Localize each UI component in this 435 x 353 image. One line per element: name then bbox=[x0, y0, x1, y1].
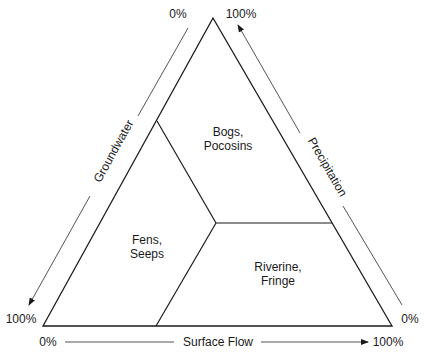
region-bogs-line2: Pocosins bbox=[204, 139, 253, 153]
ternary-diagram: Groundwater 0% 100% Precipitation 0% 100… bbox=[0, 0, 435, 353]
surface-flow-label: Surface Flow bbox=[183, 335, 253, 349]
groundwater-start: 0% bbox=[169, 7, 187, 21]
groundwater-label: Groundwater bbox=[91, 117, 137, 184]
surface-flow-end: 100% bbox=[373, 335, 404, 349]
groundwater-end: 100% bbox=[6, 312, 37, 326]
precipitation-axis-line-upper bbox=[238, 25, 300, 133]
precipitation-label: Precipitation bbox=[305, 135, 350, 199]
region-riverine-line1: Riverine, bbox=[254, 260, 301, 274]
groundwater-axis-line-lower bbox=[29, 196, 90, 305]
precipitation-start: 0% bbox=[401, 312, 419, 326]
region-bogs-line1: Bogs, bbox=[213, 125, 244, 139]
precipitation-end: 100% bbox=[226, 7, 257, 21]
divider-fens-riverine bbox=[156, 223, 216, 326]
surface-flow-start: 0% bbox=[39, 335, 57, 349]
region-fens-line2: Seeps bbox=[130, 247, 164, 261]
divider-bogs-fens bbox=[157, 121, 216, 223]
groundwater-axis-line-upper bbox=[138, 28, 188, 116]
region-fens-line1: Fens, bbox=[132, 233, 162, 247]
region-riverine-line2: Fringe bbox=[261, 274, 295, 288]
precipitation-axis-line-lower bbox=[343, 206, 402, 305]
